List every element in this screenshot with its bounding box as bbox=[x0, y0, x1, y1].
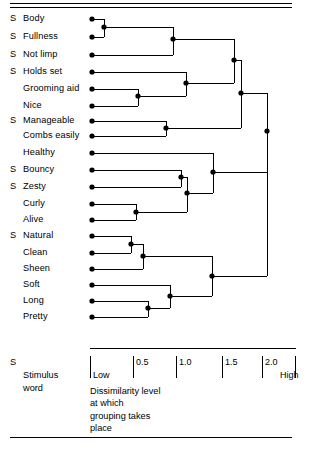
merge-node-m13 bbox=[140, 253, 145, 258]
merge-node-m9 bbox=[133, 209, 138, 214]
leaf-node-long bbox=[89, 298, 94, 303]
leaf-node-fullness bbox=[89, 34, 94, 39]
axis-tick-label-1.5: 1.5 bbox=[225, 357, 238, 367]
merge-node-m17 bbox=[264, 128, 269, 133]
legend-stimulus-line2: word bbox=[23, 383, 43, 393]
axis-tick-label-0.5: 0.5 bbox=[136, 357, 149, 367]
merge-node-m6 bbox=[163, 125, 168, 130]
leaf-node-body bbox=[89, 16, 94, 21]
leaf-node-alive bbox=[89, 217, 94, 222]
merge-node-m15 bbox=[167, 293, 172, 298]
leaf-node-clean bbox=[89, 250, 94, 255]
merge-node-m11 bbox=[210, 169, 215, 174]
leaf-node-manageable bbox=[89, 118, 94, 123]
legend-text-stimulus: Stimulus bbox=[23, 370, 58, 380]
leaf-node-natural bbox=[89, 233, 94, 238]
axis-tick-label-2.0: 2.0 bbox=[265, 357, 278, 367]
legend-stimulus-line1: Stimulus bbox=[23, 370, 58, 380]
axis-label-high: High bbox=[280, 370, 299, 380]
axis-tick-label-1.0: 1.0 bbox=[179, 357, 192, 367]
merge-node-m2 bbox=[170, 36, 175, 41]
axis-label-low: Low bbox=[93, 370, 110, 380]
axis-tick-2 bbox=[176, 356, 177, 378]
bottom-rule bbox=[10, 437, 292, 438]
merge-node-m12 bbox=[128, 241, 133, 246]
merge-node-m4 bbox=[183, 80, 188, 85]
leaf-node-nice bbox=[89, 103, 94, 108]
merge-node-m8 bbox=[178, 174, 183, 179]
leaf-node-sheen bbox=[89, 266, 94, 271]
legend-stimulus-marker: S bbox=[10, 357, 16, 367]
axis-caption-line-0: Dissimilarity level bbox=[90, 385, 220, 397]
leaf-node-not-limp bbox=[89, 52, 94, 57]
leaf-node-soft bbox=[89, 282, 94, 287]
axis-tick-0 bbox=[90, 356, 91, 378]
leaf-node-zesty bbox=[89, 184, 94, 189]
merge-node-m7 bbox=[238, 90, 243, 95]
leaf-node-grooming-aid bbox=[89, 86, 94, 91]
leaf-node-pretty bbox=[89, 314, 94, 319]
merge-node-m16 bbox=[209, 273, 214, 278]
leaf-node-curly bbox=[89, 201, 94, 206]
leaf-node-bouncy bbox=[89, 167, 94, 172]
axis-tick-4 bbox=[262, 356, 263, 378]
leaf-node-healthy bbox=[89, 150, 94, 155]
axis-caption-line-2: grouping takes bbox=[90, 410, 220, 422]
axis-caption-line-3: place bbox=[90, 422, 220, 434]
axis-rule bbox=[90, 348, 296, 349]
merge-node-m1 bbox=[101, 24, 106, 29]
axis-caption-line-1: at which bbox=[90, 397, 220, 409]
merge-node-m14 bbox=[145, 305, 150, 310]
leaf-node-combs-easily bbox=[89, 133, 94, 138]
dendrogram-figure: SBodySFullnessSNot limpSHolds setGroomin… bbox=[0, 0, 311, 449]
axis-caption: Dissimilarity levelat whichgrouping take… bbox=[90, 385, 220, 435]
leaf-node-holds-set bbox=[89, 69, 94, 74]
axis-tick-3 bbox=[222, 356, 223, 378]
merge-node-m3 bbox=[135, 93, 140, 98]
dendrogram-tree bbox=[0, 0, 311, 340]
axis-tick-1 bbox=[133, 356, 134, 378]
merge-node-m10 bbox=[184, 190, 189, 195]
merge-node-m5 bbox=[231, 57, 236, 62]
